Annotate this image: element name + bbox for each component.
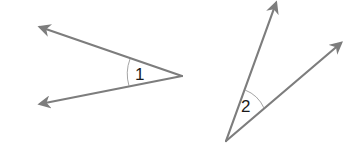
- angle-1-lower-ray: [40, 76, 182, 104]
- angle-2: 2: [226, 3, 341, 141]
- angle-2-label: 2: [241, 97, 250, 116]
- angle-1-upper-ray: [40, 27, 182, 76]
- angle-1: 1: [40, 27, 182, 104]
- angles-diagram: 1 2: [0, 0, 355, 150]
- angle-1-label: 1: [135, 65, 144, 84]
- angle-1-arc: [127, 59, 130, 86]
